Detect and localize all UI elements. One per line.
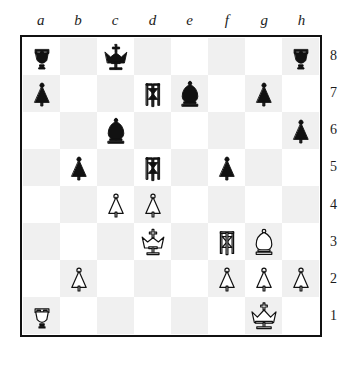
piece-black-rook[interactable] [286,42,316,72]
piece-white-pawn[interactable] [101,190,131,220]
square-g3[interactable] [245,223,282,260]
square-c8[interactable] [97,38,134,75]
piece-black-pawn[interactable] [212,153,242,183]
rank-label-8: 8 [330,37,352,74]
square-b5[interactable] [60,149,97,186]
square-f4[interactable] [208,186,245,223]
square-d4[interactable] [134,186,171,223]
file-label-f: f [208,8,245,32]
square-f6[interactable] [208,112,245,149]
square-b2[interactable] [60,260,97,297]
rank-label-5: 5 [330,149,352,186]
square-d8[interactable] [134,38,171,75]
piece-white-pawn[interactable] [212,264,242,294]
square-c5[interactable] [97,149,134,186]
square-h7[interactable] [282,75,319,112]
square-a1[interactable] [23,297,60,334]
piece-black-pawn[interactable] [64,153,94,183]
file-label-d: d [134,8,171,32]
square-d5[interactable] [134,149,171,186]
square-b8[interactable] [60,38,97,75]
square-a5[interactable] [23,149,60,186]
square-c1[interactable] [97,297,134,334]
square-d2[interactable] [134,260,171,297]
square-c3[interactable] [97,223,134,260]
square-e5[interactable] [171,149,208,186]
square-d6[interactable] [134,112,171,149]
square-d7[interactable] [134,75,171,112]
file-label-g: g [246,8,283,32]
square-f7[interactable] [208,75,245,112]
square-a8[interactable] [23,38,60,75]
square-c6[interactable] [97,112,134,149]
square-g1[interactable] [245,297,282,334]
square-f8[interactable] [208,38,245,75]
square-g2[interactable] [245,260,282,297]
square-h4[interactable] [282,186,319,223]
square-e3[interactable] [171,223,208,260]
chess-board-grid [23,38,319,334]
file-label-b: b [59,8,96,32]
square-h6[interactable] [282,112,319,149]
piece-white-pawn[interactable] [286,264,316,294]
square-a7[interactable] [23,75,60,112]
square-g5[interactable] [245,149,282,186]
piece-white-bishop[interactable] [249,227,279,257]
square-e7[interactable] [171,75,208,112]
square-b6[interactable] [60,112,97,149]
piece-white-knight[interactable] [212,227,242,257]
square-e6[interactable] [171,112,208,149]
file-label-e: e [171,8,208,32]
piece-black-pawn[interactable] [286,116,316,146]
square-d1[interactable] [134,297,171,334]
square-f1[interactable] [208,297,245,334]
square-h2[interactable] [282,260,319,297]
square-f3[interactable] [208,223,245,260]
square-g7[interactable] [245,75,282,112]
square-d3[interactable] [134,223,171,260]
piece-white-rook[interactable] [27,301,57,331]
square-a4[interactable] [23,186,60,223]
square-e1[interactable] [171,297,208,334]
piece-black-bishop[interactable] [175,79,205,109]
piece-white-pawn[interactable] [138,190,168,220]
square-g8[interactable] [245,38,282,75]
rank-label-6: 6 [330,112,352,149]
piece-black-knight[interactable] [138,79,168,109]
piece-white-pawn[interactable] [64,264,94,294]
square-b3[interactable] [60,223,97,260]
square-f5[interactable] [208,149,245,186]
piece-white-king[interactable] [138,227,168,257]
piece-black-pawn[interactable] [249,79,279,109]
square-b1[interactable] [60,297,97,334]
chess-board-frame [20,35,322,337]
square-a2[interactable] [23,260,60,297]
square-h1[interactable] [282,297,319,334]
square-h3[interactable] [282,223,319,260]
square-c7[interactable] [97,75,134,112]
square-e8[interactable] [171,38,208,75]
square-g4[interactable] [245,186,282,223]
square-e4[interactable] [171,186,208,223]
piece-white-queen[interactable] [249,301,279,331]
rank-label-4: 4 [330,186,352,223]
square-a6[interactable] [23,112,60,149]
piece-black-rook[interactable] [27,42,57,72]
piece-black-king[interactable] [101,42,131,72]
square-b4[interactable] [60,186,97,223]
square-b7[interactable] [60,75,97,112]
piece-white-pawn[interactable] [249,264,279,294]
piece-black-knight[interactable] [138,153,168,183]
square-c4[interactable] [97,186,134,223]
rank-label-3: 3 [330,223,352,260]
square-e2[interactable] [171,260,208,297]
square-f2[interactable] [208,260,245,297]
square-h8[interactable] [282,38,319,75]
square-g6[interactable] [245,112,282,149]
square-h5[interactable] [282,149,319,186]
piece-black-bishop[interactable] [101,116,131,146]
rank-label-7: 7 [330,74,352,111]
square-c2[interactable] [97,260,134,297]
piece-black-pawn[interactable] [27,79,57,109]
square-a3[interactable] [23,223,60,260]
